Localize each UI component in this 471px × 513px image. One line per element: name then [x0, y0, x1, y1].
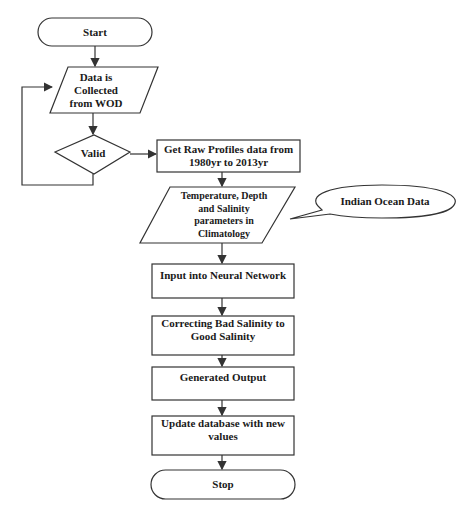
- nn-label: Input into Neural Network: [152, 264, 294, 286]
- collect-label: Data is Collected from WOD: [66, 69, 126, 111]
- valid-label: Valid: [65, 143, 121, 163]
- raw-label: Get Raw Profiles data from 1980yr to 201…: [160, 141, 297, 171]
- update-label: Update database with new values: [156, 416, 290, 444]
- correct-label: Correcting Bad Salinity to Good Salinity: [156, 316, 290, 344]
- params-label: Temperature, Depth and Salinity paramete…: [178, 189, 270, 241]
- stop-label: Stop: [151, 470, 295, 499]
- start-label: Start: [38, 18, 152, 46]
- callout-label: Indian Ocean Data: [330, 186, 440, 216]
- output-label: Generated Output: [152, 367, 294, 387]
